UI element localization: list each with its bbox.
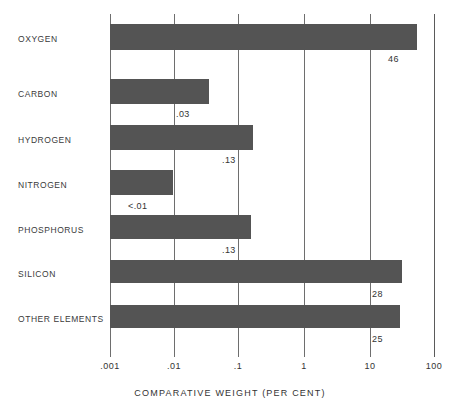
xtick-label-10: 10 [364, 362, 375, 371]
bar-hydrogen [110, 125, 253, 150]
bar-phosphorus [110, 215, 251, 239]
xtick-label-0.001: .001 [100, 362, 120, 371]
bar-silicon [110, 260, 402, 283]
category-label-silicon: SILICON [18, 270, 56, 279]
category-label-hydrogen: HYDROGEN [18, 136, 72, 145]
category-label-phosphorus: PHOSPHORUS [18, 226, 84, 235]
value-label-other-elements: 25 [372, 335, 383, 344]
value-label-phosphorus: .13 [222, 246, 236, 255]
category-label-carbon: CARBON [18, 90, 58, 99]
plot-area: OXYGEN CARBON HYDROGEN NITROGEN PHOSPHOR… [0, 0, 460, 415]
bar-oxygen [110, 24, 417, 50]
xtick-label-100: 100 [426, 362, 443, 371]
category-label-nitrogen: NITROGEN [18, 181, 67, 190]
value-label-silicon: 28 [372, 290, 383, 299]
bar-nitrogen [110, 170, 173, 195]
value-label-oxygen: 46 [388, 55, 399, 64]
value-label-hydrogen: .13 [222, 156, 236, 165]
value-label-nitrogen: <.01 [128, 202, 147, 211]
category-label-oxygen: OXYGEN [18, 35, 58, 44]
value-label-carbon: .03 [176, 110, 190, 119]
xtick-label-1: 1 [301, 362, 307, 371]
bar-carbon [110, 79, 209, 104]
x-axis-title: COMPARATIVE WEIGHT (PER CENT) [0, 389, 460, 398]
xtick-label-0.1: .1 [234, 362, 243, 371]
bar-other-elements [110, 305, 400, 328]
category-label-other-elements: OTHER ELEMENTS [18, 315, 104, 324]
xtick-label-0.01: .01 [167, 362, 181, 371]
bar-chart: OXYGEN CARBON HYDROGEN NITROGEN PHOSPHOR… [0, 0, 460, 415]
gridline-100 [434, 14, 435, 357]
